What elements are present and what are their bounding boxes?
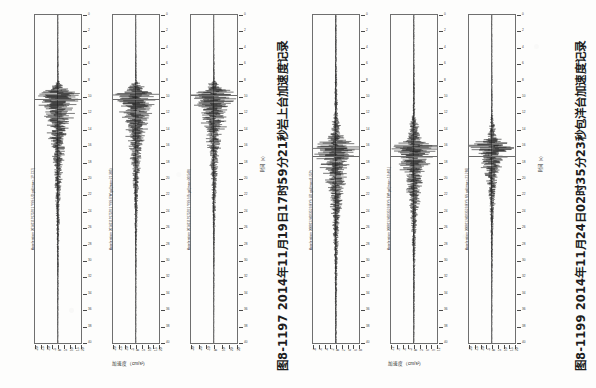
waveform-trace (469, 15, 515, 343)
zero-crossing-marker (469, 156, 515, 157)
amplitude-axis-ticks: -8-6-4-202468 (312, 345, 360, 367)
seismogram-panel: 0246810121416182022242628303234363840 -8… (304, 14, 370, 344)
zero-crossing-marker (191, 95, 237, 96)
time-axis-ticks: 0246810121416182022242628303234363840 (517, 14, 526, 344)
figure-caption: 图8-1197 2014年11月19日17时59分21秒岩上台加速度记录 (274, 41, 290, 371)
figure-group-left: 0246810121416182022242628303234363840 -2… (0, 0, 300, 388)
zero-crossing-marker (391, 156, 437, 157)
waveform-trace (391, 15, 437, 343)
time-axis-title: 时间（s） (537, 154, 543, 172)
zero-crossing-marker (35, 99, 81, 100)
amplitude-axis-ticks: -20-15-10-505101520 (468, 345, 516, 367)
amplitude-axis-title: 加速度（cm/s²） (388, 360, 424, 366)
waveform-trace (191, 15, 237, 343)
seismogram-panel: 0246810121416182022242628303234363840 -1… (382, 14, 448, 344)
series-label: Acceleration 20081124023523 BYS NS gal(m… (466, 168, 469, 250)
series-label: Acceleration 20081124023523 BYS UD gal(m… (310, 170, 313, 250)
time-axis-title: 时间（s） (259, 154, 265, 172)
seismogram-panel: 0246810121416182022242628303234363840 -2… (26, 14, 92, 344)
seismogram-panel: 0246810121416182022242628303234363840 -3… (182, 14, 248, 344)
series-label: Acceleration 20141119175921 YSS EW gal(m… (110, 168, 113, 250)
series-label: Acceleration 20081124023523 BYS EW gal(m… (388, 167, 391, 250)
time-axis-ticks: 0246810121416182022242628303234363840 (83, 14, 92, 344)
time-axis-ticks: 0246810121416182022242628303234363840 (161, 14, 170, 344)
time-axis-ticks: 0246810121416182022242628303234363840 (439, 14, 448, 344)
series-label: Acceleration 20141119175921 YSS UD gal(m… (32, 168, 35, 250)
waveform-trace (313, 15, 359, 343)
figure-group-right: 0246810121416182022242628303234363840 -8… (296, 0, 596, 388)
zero-crossing-marker (113, 99, 159, 100)
series-label: Acceleration 20141119175921 YSS NS gal(m… (188, 169, 191, 250)
seismogram-panel: 0246810121416182022242628303234363840 -2… (104, 14, 170, 344)
waveform-trace (113, 15, 159, 343)
figure-caption: 图8-1199 2014年11月24日02时35分23秒包洋台加速度记录 (572, 41, 588, 371)
time-axis-ticks: 0246810121416182022242628303234363840 (239, 14, 248, 344)
zero-crossing-marker (313, 156, 359, 157)
scanned-page: 0246810121416182022242628303234363840 -2… (0, 0, 596, 388)
waveform-trace (35, 15, 81, 343)
time-axis-ticks: 0246810121416182022242628303234363840 (361, 14, 370, 344)
amplitude-axis-title: 加速度（cm/s²） (112, 360, 148, 366)
seismogram-panel: 0246810121416182022242628303234363840 -2… (460, 14, 526, 344)
amplitude-axis-ticks: -30-20-100102030 (190, 345, 238, 367)
amplitude-axis-ticks: -20-15-10-505101520 (34, 345, 82, 367)
